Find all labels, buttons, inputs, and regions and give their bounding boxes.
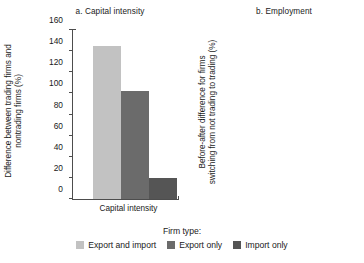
panel-a-bar-group <box>73 30 178 199</box>
panel-b-y-axis-title: Before-after difference for firms switch… <box>198 24 218 200</box>
panel-b-y-axis-title-line2: switching from not trading to trading (%… <box>208 24 218 200</box>
panel-a-x-axis-cap <box>178 196 179 200</box>
panel-a-y-tick-label: 60 <box>54 121 63 131</box>
panel-a-y-axis-title-line2: nontrading firms (%) <box>14 26 24 196</box>
panel-a-y-axis-title-line1: Difference between trading firms and <box>4 44 13 178</box>
panel-b-title: b. Employment <box>212 7 356 16</box>
legend-items: Export and importExport onlyImport only <box>0 240 364 250</box>
chart-panel-a: a. Capital intensity Difference between … <box>0 0 192 220</box>
panel-a-y-tick-label: 140 <box>49 36 63 46</box>
legend-label: Export only <box>179 240 222 250</box>
legend-title: Firm type: <box>0 226 364 236</box>
panel-a-y-axis-title: Difference between trading firms and non… <box>4 26 24 196</box>
legend-item[interactable]: Import only <box>233 240 288 250</box>
legend-swatch-icon <box>76 241 84 249</box>
panel-a-y-tick-label: 160 <box>49 15 63 25</box>
panel-b-y-axis-title-line1: Before-after difference for firms <box>198 55 207 168</box>
panel-a-y-tick-label: 80 <box>54 100 63 110</box>
figure-root: a. Capital intensity Difference between … <box>0 0 364 263</box>
legend-swatch-icon <box>233 241 241 249</box>
panel-a-y-tick-label: 20 <box>54 163 63 173</box>
bar <box>93 46 121 199</box>
legend: Firm type: Export and importExport onlyI… <box>0 226 364 250</box>
legend-label: Export and import <box>88 240 156 250</box>
legend-swatch-icon <box>167 241 175 249</box>
bar <box>149 178 177 199</box>
bar <box>121 91 149 199</box>
panel-a-y-tick-label: 120 <box>49 57 63 67</box>
panel-a-y-tick-label: 0 <box>58 184 63 194</box>
legend-item[interactable]: Export only <box>167 240 222 250</box>
legend-item[interactable]: Export and import <box>76 240 156 250</box>
legend-label: Import only <box>245 240 288 250</box>
panel-a-plot-area: 020406080100120140160 Capital intensity <box>72 30 178 200</box>
panel-a-y-tick-label: 100 <box>49 78 63 88</box>
panel-a-x-axis-label: Capital intensity <box>79 204 178 213</box>
panel-a-y-tick-label: 40 <box>54 142 63 152</box>
